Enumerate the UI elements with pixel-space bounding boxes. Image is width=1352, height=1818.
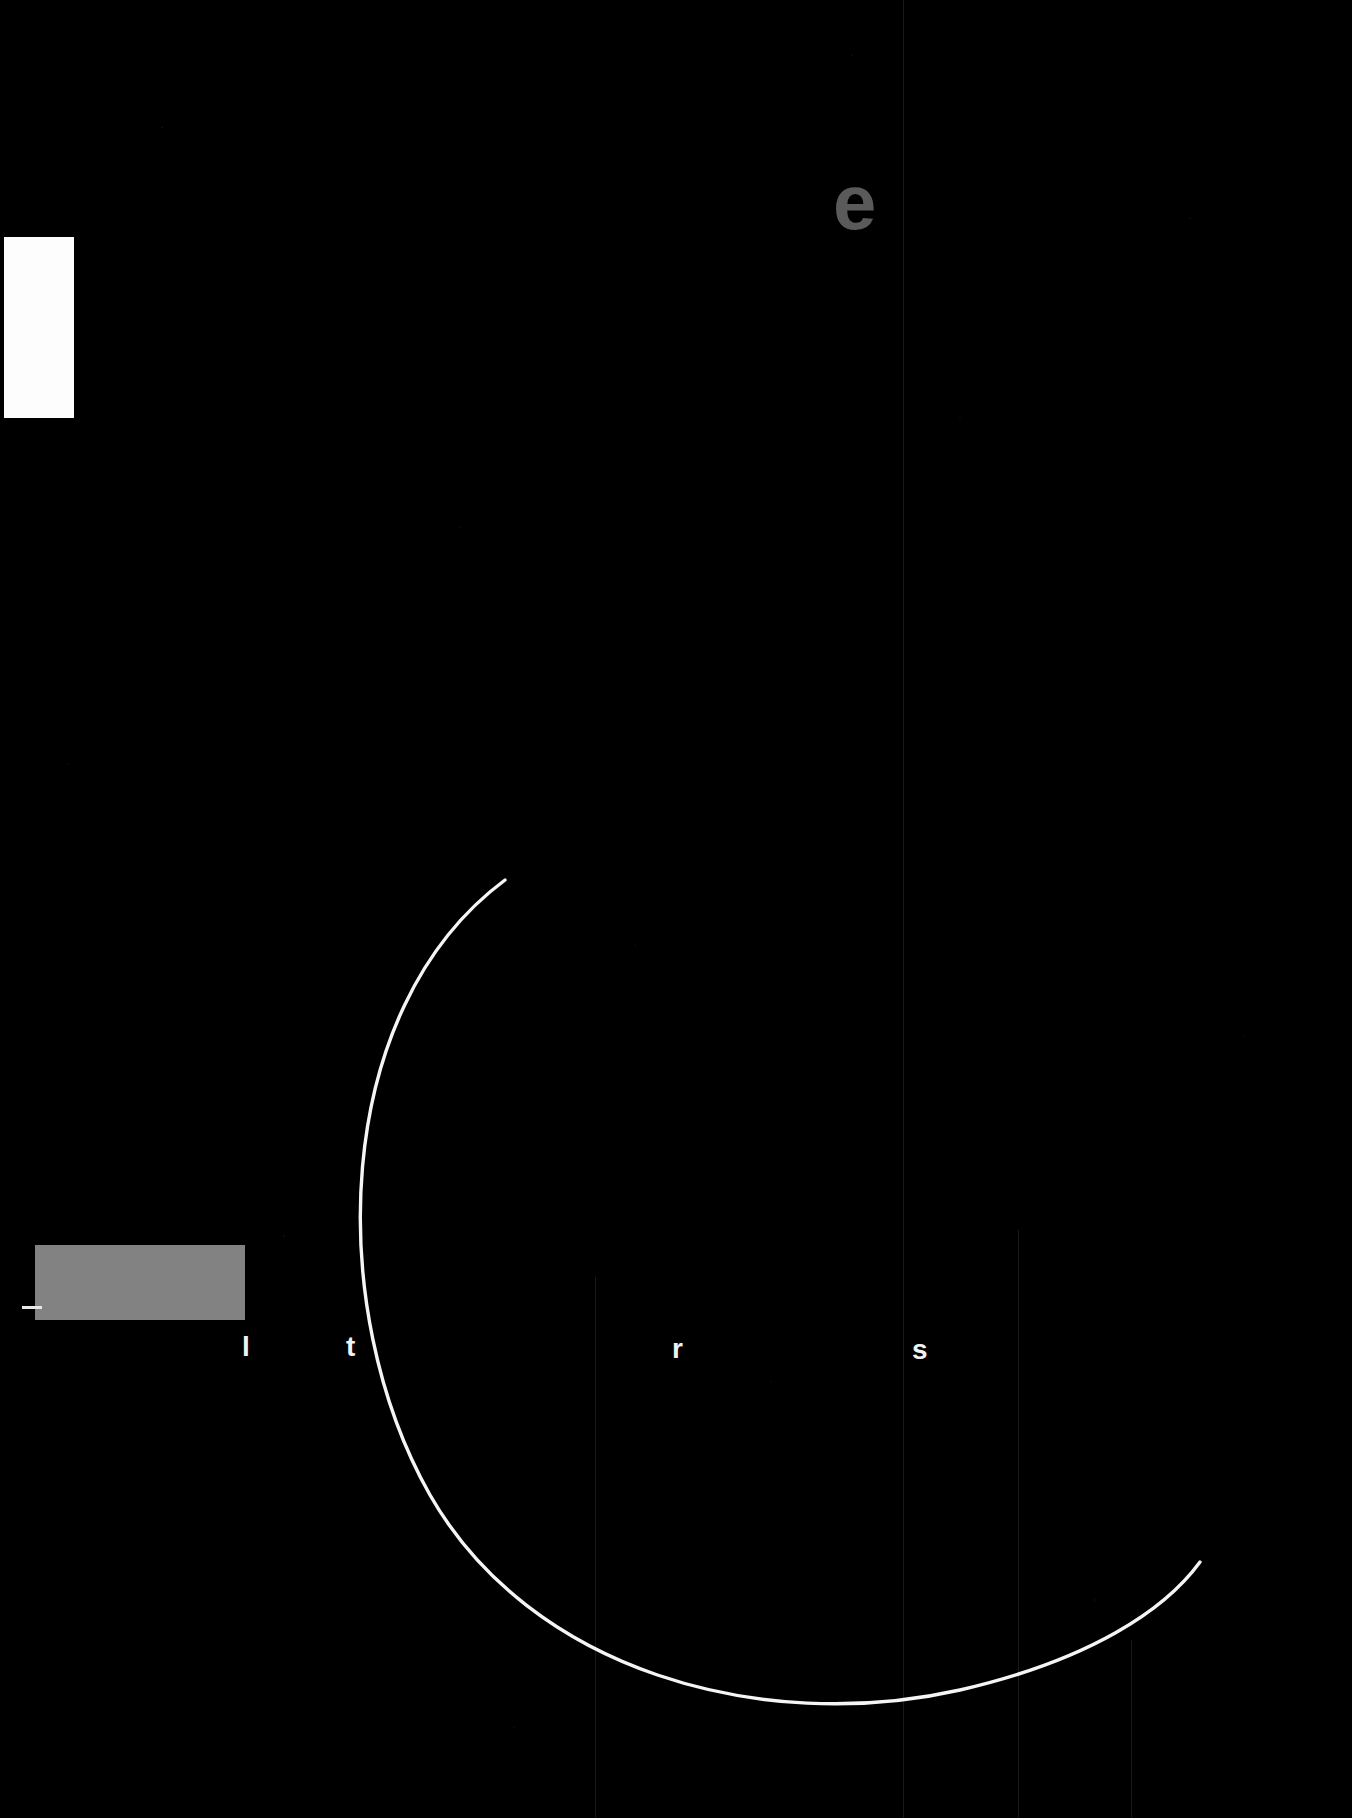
large-white-arc	[0, 0, 1352, 1818]
glyph-e: e	[833, 163, 876, 241]
faint-vertical-rule-3	[1018, 1230, 1019, 1818]
sensor-noise-layer	[0, 0, 1352, 1818]
gray-bar	[35, 1245, 245, 1320]
white-rectangle	[4, 237, 74, 418]
arc-path	[360, 880, 1200, 1704]
left-tick-mark	[22, 1306, 42, 1309]
faint-vertical-rule-2	[595, 1277, 596, 1818]
faint-vertical-rule-1	[903, 0, 904, 1818]
glyph-t: t	[346, 1333, 355, 1361]
glyph-s: s	[912, 1336, 928, 1364]
faint-vertical-rule-4	[1131, 1640, 1132, 1818]
screenshot-canvas: e l t r s	[0, 0, 1352, 1818]
glyph-r: r	[672, 1335, 683, 1363]
glyph-l: l	[242, 1333, 250, 1361]
